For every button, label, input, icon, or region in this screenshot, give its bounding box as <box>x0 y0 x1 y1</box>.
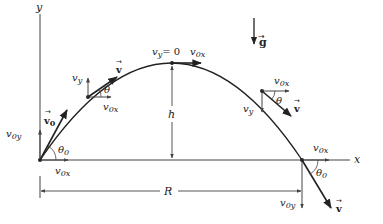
launch-point: v0 → v0y θ0 v0x <box>6 108 71 178</box>
falling-vx-label: v0x <box>274 75 290 88</box>
rising-point: v → vy θ v0x <box>72 58 123 114</box>
range-dimension: R <box>40 176 301 198</box>
svg-text:→: → <box>116 58 122 66</box>
svg-text:→: → <box>336 197 342 205</box>
svg-text:→: → <box>294 97 300 105</box>
range-label: R <box>163 185 172 198</box>
apex-vx-label: v0x <box>190 46 206 59</box>
y-axis-label: y <box>35 1 43 14</box>
height-dimension: h <box>168 66 175 158</box>
rising-angle-label: θ <box>104 84 110 95</box>
height-label: h <box>168 108 175 121</box>
falling-vy-label: vy <box>243 103 254 116</box>
rising-vy-label: vy <box>72 72 83 85</box>
falling-angle-label: θ <box>276 95 282 106</box>
launch-vx-label: v0x <box>55 165 71 178</box>
svg-text:→: → <box>258 32 265 41</box>
launch-velocity-label: v0 <box>43 115 56 128</box>
launch-vy-label: v0y <box>6 128 22 141</box>
svg-text:→: → <box>45 108 51 116</box>
falling-point: v0x θ vy v → <box>243 75 301 116</box>
gravity-vector: g → <box>254 18 267 49</box>
landing-point: v0x θ0 v0y v → <box>280 142 343 214</box>
apex-vy-label: vy= 0 <box>152 46 180 59</box>
landing-vy-label: v0y <box>280 197 296 210</box>
rising-vx-label: v0x <box>103 101 119 114</box>
landing-angle-label: θ0 <box>316 167 327 180</box>
projectile-diagram: y x g → v0 → v0y θ0 v0x v → vy θ v0x <box>0 0 383 224</box>
y-axis: y <box>35 1 43 160</box>
landing-vx-label: v0x <box>313 142 329 155</box>
apex-point: vy= 0 v0x <box>152 46 206 65</box>
launch-angle-label: θ0 <box>58 144 69 157</box>
x-axis-label: x <box>354 153 361 166</box>
